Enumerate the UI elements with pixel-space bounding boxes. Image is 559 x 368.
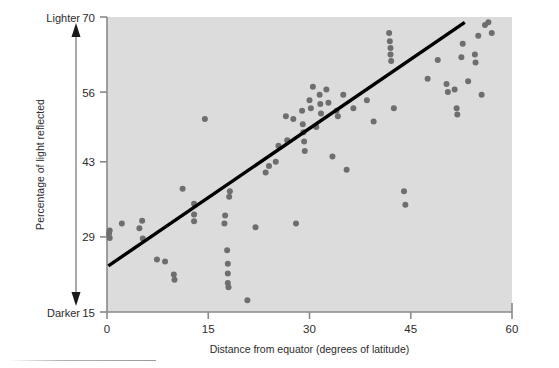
data-point xyxy=(388,58,394,64)
data-point xyxy=(485,19,491,25)
x-axis-tick-label: 15 xyxy=(202,323,215,335)
data-point xyxy=(479,92,485,98)
data-point xyxy=(350,105,356,111)
data-point xyxy=(225,270,231,276)
data-point xyxy=(371,119,377,125)
direction-arrow-up-head-icon xyxy=(72,23,81,37)
data-point xyxy=(335,113,341,119)
data-point xyxy=(107,227,113,233)
data-point xyxy=(244,297,250,303)
data-point xyxy=(293,221,299,227)
data-point xyxy=(388,52,394,58)
data-point xyxy=(253,224,259,230)
data-point xyxy=(402,202,408,208)
data-point xyxy=(171,271,177,277)
data-point xyxy=(273,159,279,165)
data-point xyxy=(180,186,186,192)
data-point xyxy=(454,105,460,111)
data-point xyxy=(325,100,331,106)
data-point xyxy=(119,221,125,227)
data-point xyxy=(136,225,142,231)
data-point xyxy=(425,76,431,82)
data-point xyxy=(340,92,346,98)
data-point xyxy=(224,247,230,253)
data-point xyxy=(317,101,323,107)
data-point xyxy=(266,163,272,169)
direction-arrow-down-head-icon xyxy=(72,292,81,306)
y-axis-tick-label: 56 xyxy=(82,87,95,99)
data-point xyxy=(172,277,178,283)
data-point xyxy=(307,97,313,103)
data-point xyxy=(283,113,289,119)
data-point xyxy=(226,284,232,290)
data-point xyxy=(308,105,314,111)
x-axis-tick-label: 45 xyxy=(404,323,417,335)
data-point xyxy=(226,194,232,200)
data-point xyxy=(162,259,168,265)
x-axis-tick-label: 0 xyxy=(104,323,110,335)
data-point xyxy=(302,148,308,154)
y-axis-tick-label: 15 xyxy=(82,307,95,319)
data-point xyxy=(460,41,466,47)
data-point xyxy=(458,54,464,60)
data-point xyxy=(107,235,113,241)
data-point xyxy=(139,218,145,224)
data-point xyxy=(465,78,471,84)
darker-label: Darker xyxy=(47,307,80,319)
data-point xyxy=(489,30,495,36)
footer-rule xyxy=(8,360,156,361)
data-point xyxy=(299,108,305,114)
data-point xyxy=(225,261,231,267)
y-axis-tick-label: 43 xyxy=(82,156,95,168)
data-point xyxy=(221,221,227,227)
data-point xyxy=(386,30,392,36)
data-point xyxy=(475,33,481,39)
data-point xyxy=(310,84,316,90)
data-point xyxy=(301,138,307,144)
data-point xyxy=(227,188,233,194)
data-point xyxy=(317,92,323,98)
scatter-plot-figure: 1529435670015304560Distance from equator… xyxy=(0,0,559,368)
x-axis-tick-label: 60 xyxy=(506,323,519,335)
data-point xyxy=(263,170,269,176)
data-point xyxy=(300,121,306,127)
data-point xyxy=(435,57,441,63)
x-axis-title: Distance from equator (degrees of latitu… xyxy=(210,343,410,355)
chart-canvas: 1529435670015304560Distance from equator… xyxy=(0,0,559,368)
data-point xyxy=(344,167,350,173)
data-point xyxy=(473,60,479,66)
data-point xyxy=(191,218,197,224)
data-point xyxy=(387,38,393,44)
data-point xyxy=(290,116,296,122)
data-point xyxy=(318,111,324,117)
y-axis-title: Percentage of light reflected xyxy=(34,99,46,230)
data-point xyxy=(444,81,450,87)
data-point xyxy=(388,45,394,51)
data-point xyxy=(452,86,458,92)
data-point xyxy=(445,89,451,95)
data-point xyxy=(364,97,370,103)
data-point xyxy=(472,52,478,58)
data-point xyxy=(202,116,208,122)
plot-area-background xyxy=(107,17,512,312)
data-point xyxy=(401,188,407,194)
x-axis-tick-label: 30 xyxy=(303,323,316,335)
data-point xyxy=(391,105,397,111)
lighter-label: Lighter xyxy=(46,12,80,24)
y-axis-tick-label: 70 xyxy=(82,12,95,24)
data-point xyxy=(222,212,228,218)
y-axis-tick-label: 29 xyxy=(82,231,95,243)
data-point xyxy=(154,256,160,262)
data-point xyxy=(323,86,329,92)
data-point xyxy=(191,211,197,217)
data-point xyxy=(329,153,335,159)
data-point xyxy=(454,112,460,118)
